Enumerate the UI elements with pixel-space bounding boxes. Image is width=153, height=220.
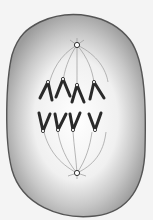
centrosome-top [74,42,79,47]
cell-diagram [0,0,153,220]
centrosome-bottom [74,170,79,175]
